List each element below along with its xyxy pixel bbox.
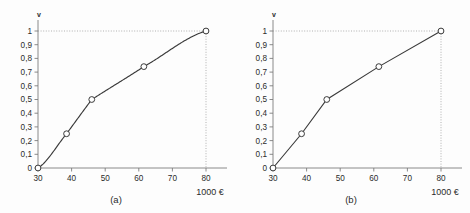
y-tick-label: 0,9 [256,41,268,50]
y-tick-label: 0,1 [21,150,33,159]
chart-b-labels: 00,10,20,30,40,50,60,70,80,9130405060708… [235,0,470,213]
y-tick-label: 0,5 [21,95,33,104]
y-tick-label: 0,3 [21,123,33,132]
x-axis-unit-label: 1000 € [196,187,224,197]
x-tick-label: 70 [403,174,413,183]
x-tick-label: 70 [168,174,178,183]
x-tick-label: 80 [436,174,446,183]
x-tick-label: 80 [201,174,211,183]
y-tick-label: 0,6 [256,82,268,91]
x-tick-label: 50 [336,174,346,183]
y-tick-label: 1 [27,27,32,36]
y-tick-label: 0 [262,164,267,173]
x-axis-unit-label: 1000 € [431,187,459,197]
y-tick-label: 0 [27,164,32,173]
panel-caption-label: (a) [110,194,122,205]
panel-b: 00,10,20,30,40,50,60,70,80,9130405060708… [235,0,470,213]
figure-two-panel-utility-curves: 00,10,20,30,40,50,60,70,80,9130405060708… [0,0,470,213]
x-tick-label: 30 [33,174,43,183]
x-tick-label: 40 [67,174,77,183]
y-tick-label: 0,1 [256,150,268,159]
y-tick-label: 0,2 [21,137,33,146]
y-tick-label: 1 [262,27,267,36]
y-tick-label: 0,8 [21,54,33,63]
y-axis-name-label: v [37,11,41,18]
y-axis-name-label: v [272,11,276,18]
y-tick-label: 0,2 [256,137,268,146]
x-tick-label: 30 [268,174,278,183]
x-tick-label: 60 [369,174,379,183]
y-tick-label: 0,9 [21,41,33,50]
y-tick-label: 0,7 [21,68,33,77]
y-tick-label: 0,7 [256,68,268,77]
y-tick-label: 0,4 [256,109,268,118]
panel-caption-label: (b) [345,194,357,205]
y-tick-label: 0,6 [21,82,33,91]
y-tick-label: 0,3 [256,123,268,132]
y-tick-label: 0,4 [21,109,33,118]
y-tick-label: 0,5 [256,95,268,104]
x-tick-label: 40 [302,174,312,183]
chart-a-labels: 00,10,20,30,40,50,60,70,80,9130405060708… [0,0,235,213]
panel-a: 00,10,20,30,40,50,60,70,80,9130405060708… [0,0,235,213]
y-tick-label: 0,8 [256,54,268,63]
x-tick-label: 60 [134,174,144,183]
x-tick-label: 50 [101,174,111,183]
